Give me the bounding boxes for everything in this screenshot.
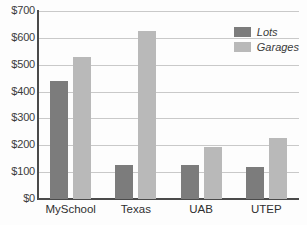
bar-texas-garages [138, 31, 156, 199]
y-axis-tick-label: $700 [0, 4, 35, 16]
chart-legend: LotsGarages [234, 26, 299, 53]
bar-utep-garages [269, 138, 287, 199]
legend-item-garages[interactable]: Garages [234, 41, 299, 53]
x-axis-tick-label: UTEP [234, 203, 299, 215]
legend-label: Garages [257, 41, 299, 53]
bar-myschool-garages [73, 57, 91, 199]
y-axis-tick-label: $200 [0, 138, 35, 150]
bar-utep-lots [246, 167, 264, 199]
bar-uab-lots [181, 165, 199, 199]
bar-uab-garages [204, 147, 222, 199]
bar-chart: $0$100$200$300$400$500$600$700 MySchoolT… [0, 0, 307, 225]
y-axis-tick-label: $500 [0, 58, 35, 70]
x-axis-tick-label: MySchool [38, 203, 103, 215]
y-axis-tick-label: $0 [0, 192, 35, 204]
x-axis-tick-label: Texas [103, 203, 168, 215]
y-axis-tick-label: $400 [0, 85, 35, 97]
bar-myschool-lots [50, 81, 68, 199]
legend-swatch-icon [234, 42, 251, 52]
legend-item-lots[interactable]: Lots [234, 26, 299, 38]
legend-swatch-icon [234, 27, 251, 37]
y-axis-tick-label: $100 [0, 165, 35, 177]
bar-texas-lots [115, 165, 133, 199]
y-axis-tick-label: $300 [0, 111, 35, 123]
legend-label: Lots [257, 26, 278, 38]
x-axis-tick-label: UAB [169, 203, 234, 215]
y-axis-tick-label: $600 [0, 31, 35, 43]
